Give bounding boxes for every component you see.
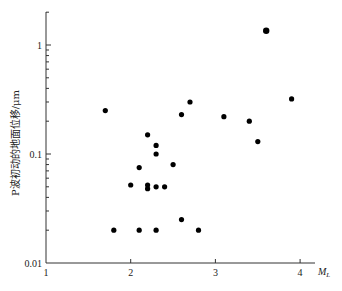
data-point: [221, 114, 226, 119]
data-point: [263, 28, 269, 34]
data-point: [137, 228, 142, 233]
data-point: [154, 184, 159, 189]
data-point: [154, 143, 159, 148]
data-point: [111, 228, 116, 233]
axis-ticks: 12340.010.11: [25, 12, 303, 278]
data-point: [247, 119, 252, 124]
data-point: [137, 165, 142, 170]
x-axis-title: ML: [317, 266, 330, 279]
data-point: [154, 228, 159, 233]
data-point: [255, 139, 260, 144]
x-tick-label: 2: [128, 267, 133, 278]
data-point: [196, 228, 201, 233]
x-tick-label: 4: [298, 267, 303, 278]
data-point: [145, 132, 150, 137]
x-tick-label: 3: [213, 267, 218, 278]
x-tick-label: 1: [44, 267, 49, 278]
data-point: [179, 217, 184, 222]
data-points: [103, 28, 295, 233]
y-tick-label: 0.1: [30, 149, 43, 160]
x-axis-title-sub: L: [325, 271, 330, 279]
y-tick-label: 0.01: [25, 258, 43, 269]
data-point: [289, 96, 294, 101]
data-point: [103, 108, 108, 113]
data-point: [145, 186, 150, 191]
data-point: [187, 99, 192, 104]
y-tick-label: 1: [37, 40, 42, 51]
data-point: [162, 184, 167, 189]
axes: [46, 12, 315, 263]
data-point: [128, 182, 133, 187]
scatter-chart: 12340.010.11 P波初动的地面位移/μm ML: [0, 0, 342, 291]
data-point: [171, 162, 176, 167]
data-point: [179, 112, 184, 117]
data-point: [154, 151, 159, 156]
y-axis-title: P波初动的地面位移/μm: [9, 89, 21, 196]
